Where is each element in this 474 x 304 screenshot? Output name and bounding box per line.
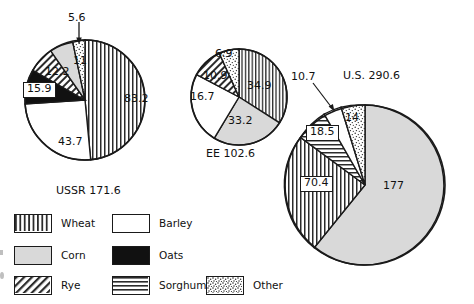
pie-us [284, 83, 445, 265]
pie-ee-label-other: 6.9 [215, 48, 233, 61]
pie-ussr-label-wheat: 83.2 [124, 93, 149, 106]
scan-artifact-mark [0, 272, 4, 279]
pie-ee-label-wheat: 34.9 [247, 80, 272, 93]
pie-us-title: U.S. 290.6 [343, 69, 400, 82]
pie-ussr-label-oats: 15.9 [23, 82, 56, 98]
pie-ee-title: EE 102.6 [206, 147, 255, 160]
pie-ee-label-barley: 16.7 [190, 91, 215, 104]
pie-ussr-slice-barley [25, 100, 91, 160]
pie-chart-figure: 83.2 43.7 15.9 12.2 11 5.6 USSR 171.6 34… [0, 0, 474, 304]
pie-ussr-label-other: 5.6 [68, 12, 86, 25]
pie-ussr-label-rye: 12.2 [45, 66, 70, 79]
pie-us-callout-barley [313, 83, 332, 108]
pie-ussr-title: USSR 171.6 [56, 184, 121, 197]
pie-us-label-barley: 10.7 [291, 71, 316, 84]
pie-ussr-label-barley: 43.7 [58, 136, 83, 149]
pie-us-label-wheat: 70.4 [300, 176, 333, 192]
pie-ee-label-corn: 33.2 [228, 115, 253, 128]
scan-artifact-mark [0, 250, 3, 255]
pie-us-label-other: 14 [345, 112, 359, 125]
pie-us-label-corn: 177 [383, 180, 404, 193]
pie-ee-label-rye: 10.9 [203, 70, 228, 83]
pie-us-label-sorghum: 18.5 [306, 125, 339, 141]
pie-ussr-label-corn: 11 [73, 55, 87, 68]
